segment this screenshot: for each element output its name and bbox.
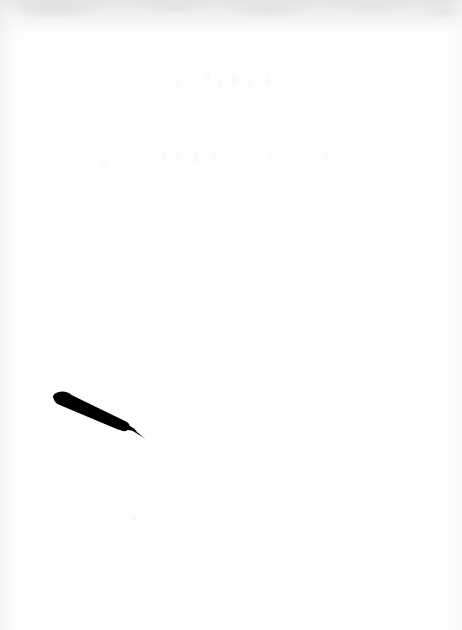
scan-right-margin-shadow [444,0,462,630]
scan-top-edge-shadow [0,0,462,44]
stray-speck [132,517,135,520]
ghost-text-line-1 [168,68,290,98]
scan-left-margin-shadow [0,0,26,630]
scanned-page [0,0,462,630]
ghost-text-line-2 [98,143,342,176]
scan-top-mottle [0,0,462,40]
